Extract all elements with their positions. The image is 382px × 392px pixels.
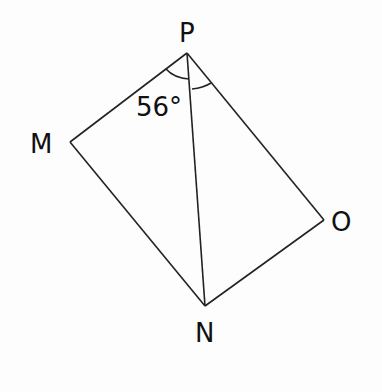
vertex-label-n: N	[195, 318, 214, 348]
angle-arc-npo	[192, 83, 211, 89]
segment-no	[205, 220, 324, 306]
angle-arc-mpn	[166, 69, 189, 79]
angle-label: 56°	[136, 92, 182, 122]
segment-pn	[187, 53, 205, 306]
diagram-svg: P M N O 56°	[0, 0, 382, 392]
segment-mn	[70, 142, 205, 306]
vertex-label-p: P	[179, 18, 195, 48]
vertex-label-m: M	[30, 129, 52, 159]
vertex-label-o: O	[331, 207, 351, 237]
segment-op	[187, 53, 324, 220]
geometry-diagram: P M N O 56°	[0, 0, 382, 392]
